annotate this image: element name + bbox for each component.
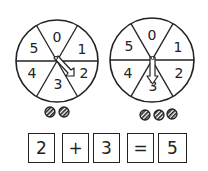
spinner-left: 0 1 2 3 4 5: [16, 20, 98, 117]
token-right-3: [167, 109, 177, 119]
spinner-left-sector-3: 3: [54, 76, 63, 92]
spinner-left-sector-0: 0: [53, 29, 62, 45]
token-right-2: [154, 110, 164, 120]
spinner-right-sector-1: 1: [174, 39, 183, 55]
spinner-right-sector-5: 5: [125, 38, 134, 54]
spinner-left-sector-2: 2: [80, 65, 89, 81]
token-left-2: [59, 107, 69, 117]
spinner-left-sector-1: 1: [78, 41, 87, 57]
equation-equals-sign: =: [127, 133, 154, 163]
equation-addend-2: 3: [93, 133, 120, 163]
equation-sum: 5: [158, 133, 187, 163]
token-right-1: [140, 110, 150, 120]
spinner-left-sector-4: 4: [28, 65, 37, 81]
equation-addend-1: 2: [28, 133, 55, 163]
spinner-right-sector-4: 4: [124, 65, 133, 81]
spinner-right-sector-2: 2: [175, 65, 184, 81]
spinner-right-sector-0: 0: [148, 27, 157, 43]
equation-plus-sign: +: [62, 133, 89, 163]
spinner-right: 0 1 2 3 4 5: [110, 18, 194, 120]
token-left-1: [45, 107, 55, 117]
addition-spinner-diagram: 0 1 2 3 4 5 0 1 2 3 4 5: [0, 0, 208, 171]
spinner-left-sector-5: 5: [30, 40, 39, 56]
